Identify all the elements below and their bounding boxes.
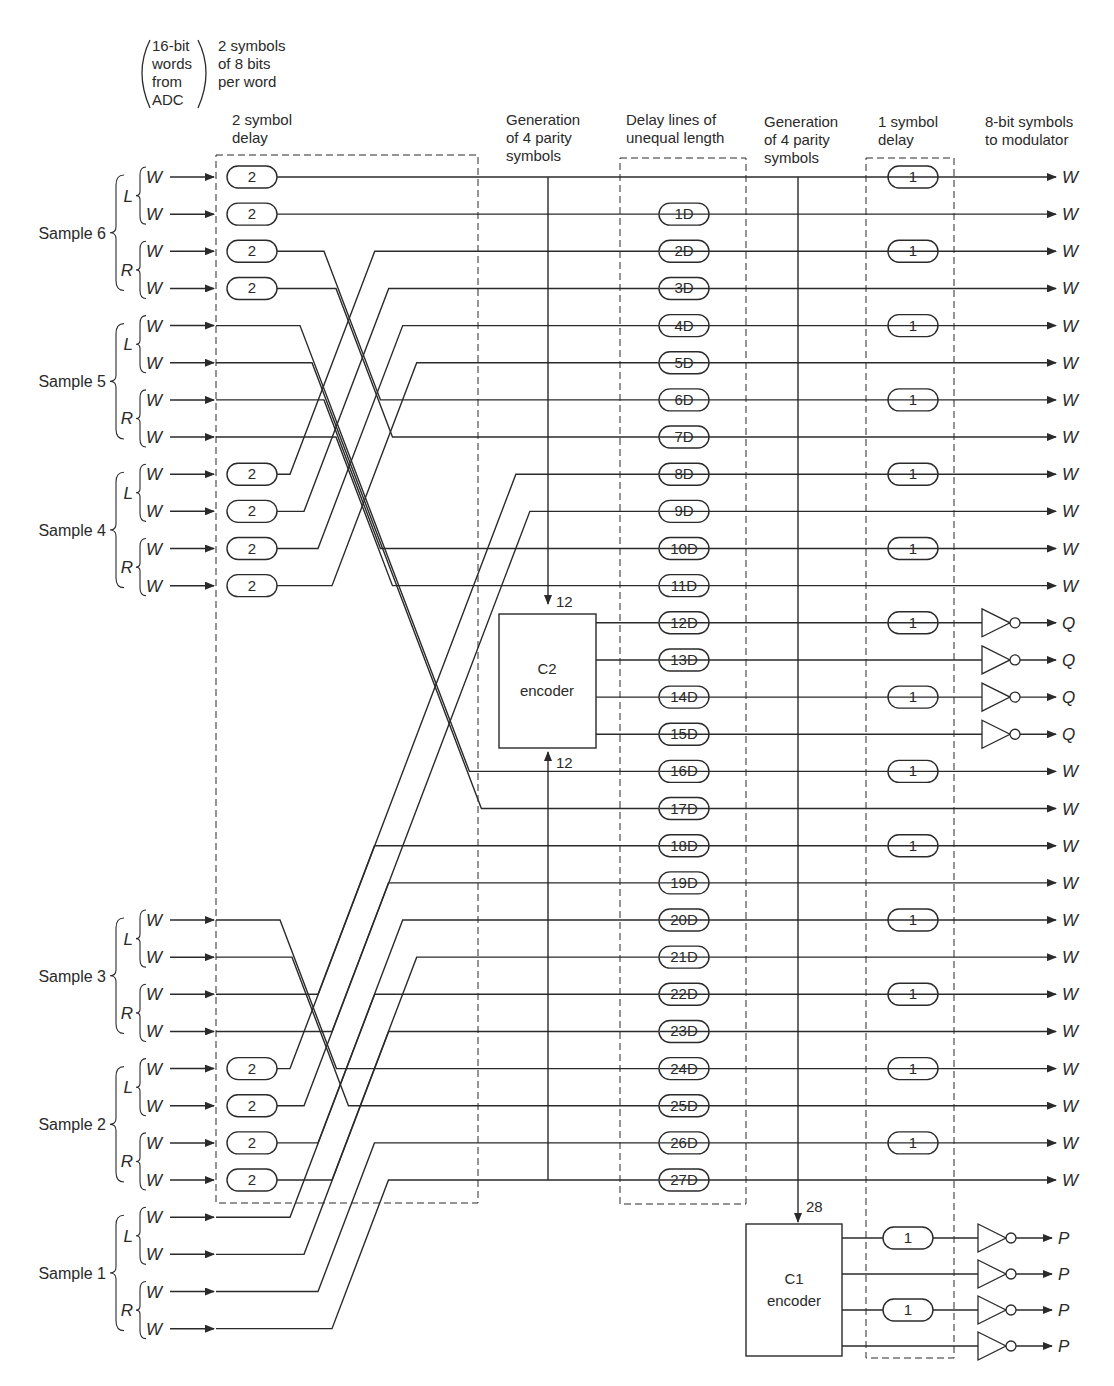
c2-encoder-subtitle: encoder <box>520 682 574 699</box>
output-symbol-label: Q <box>1062 614 1075 633</box>
channel-label: L <box>124 1227 133 1246</box>
output-symbol-label: W <box>1062 948 1080 967</box>
one-symbol-delay-box <box>866 158 954 1358</box>
inverter-bubble-icon <box>1010 618 1020 628</box>
two-symbol-delay-label: 2 <box>248 465 256 482</box>
input-word-label: W <box>146 242 164 261</box>
inverter-bubble-icon <box>1006 1341 1016 1351</box>
input-word-label: W <box>146 465 164 484</box>
header-1-symbol-delay: 1 symbol <box>878 113 938 130</box>
sample-label: Sample 6 <box>38 225 106 242</box>
outputs: WWWWWWWWWWWWQQQQWWWWWWWWWWWW <box>660 168 1080 1190</box>
header-output: to modulator <box>985 131 1068 148</box>
parity-p-label: P <box>1058 1265 1070 1284</box>
c2-encoder-title: C2 <box>537 660 556 677</box>
symbol-note: per word <box>218 73 276 90</box>
input-word-label: W <box>146 317 164 336</box>
output-symbol-label: Q <box>1062 688 1075 707</box>
channel-label: R <box>121 409 133 428</box>
output-symbol-label: W <box>1062 985 1080 1004</box>
channel-brace-icon <box>136 539 146 596</box>
output-symbol-label: Q <box>1062 651 1075 670</box>
header-output: 8-bit symbols <box>985 113 1073 130</box>
c2-input-count-bottom: 12 <box>556 754 573 771</box>
input-word-label: W <box>146 1134 164 1153</box>
channel-brace-icon <box>136 910 146 967</box>
output-symbol-label: W <box>1062 317 1080 336</box>
inverter-bubble-icon <box>1006 1305 1016 1315</box>
two-symbol-delay-label: 2 <box>248 205 256 222</box>
header-2-symbol-delay: delay <box>232 129 268 146</box>
c1-encoder-subtitle: encoder <box>767 1292 821 1309</box>
channel-label: R <box>121 1301 133 1320</box>
channel-label: L <box>124 187 133 206</box>
output-symbol-label: W <box>1062 428 1080 447</box>
right-paren-icon <box>198 40 206 108</box>
header-generation-2: symbols <box>764 149 819 166</box>
inverter-bubble-icon <box>1010 692 1020 702</box>
input-note: from <box>152 73 182 90</box>
channel-label: L <box>124 930 133 949</box>
inverter-bubble-icon <box>1006 1233 1016 1243</box>
column-headers: 16-bitwordsfromADC2 symbolsof 8 bitsper … <box>142 37 1073 166</box>
output-symbol-label: W <box>1062 540 1080 559</box>
output-symbol-label: W <box>1062 1097 1080 1116</box>
channel-brace-icon <box>136 316 146 373</box>
inverter-icon <box>978 1260 1006 1288</box>
input-word-label: W <box>146 1097 164 1116</box>
output-symbol-label: W <box>1062 1022 1080 1041</box>
inverter-icon <box>982 609 1010 637</box>
input-word-label: W <box>146 168 164 187</box>
input-word-label: W <box>146 1320 164 1339</box>
inverter-bubble-icon <box>1010 655 1020 665</box>
two-symbol-delay-label: 2 <box>248 540 256 557</box>
output-symbol-label: W <box>1062 1060 1080 1079</box>
input-word-label: W <box>146 540 164 559</box>
two-symbol-delay-label: 2 <box>248 1060 256 1077</box>
channel-brace-icon <box>136 464 146 521</box>
channel-label: R <box>121 558 133 577</box>
channel-brace-icon <box>136 1282 146 1339</box>
channel-label: R <box>121 1004 133 1023</box>
input-word-label: W <box>146 428 164 447</box>
inverter-icon <box>978 1296 1006 1324</box>
inverter-icon <box>978 1332 1006 1360</box>
header-2-symbol-delay: 2 symbol <box>232 111 292 128</box>
input-word-label: W <box>146 502 164 521</box>
input-word-label: W <box>146 205 164 224</box>
channel-label: R <box>121 261 133 280</box>
channel-label: L <box>124 335 133 354</box>
two-symbol-delay-label: 2 <box>248 242 256 259</box>
sample-label: Sample 4 <box>38 522 106 539</box>
output-symbol-label: W <box>1062 911 1080 930</box>
channel-brace-icon <box>136 241 146 298</box>
output-symbol-label: W <box>1062 465 1080 484</box>
output-symbol-label: W <box>1062 800 1080 819</box>
c1-encoder: C1encoder281PP1PP <box>746 1198 1070 1360</box>
inverter-icon <box>982 646 1010 674</box>
channel-label: L <box>124 1078 133 1097</box>
header-generation-2: Generation <box>764 113 838 130</box>
inverter-icon <box>978 1224 1006 1252</box>
c2-encoder: C2encoder1212 <box>499 593 596 771</box>
c1-encoder-box <box>746 1224 842 1356</box>
output-symbol-label: W <box>1062 279 1080 298</box>
sample-label: Sample 5 <box>38 373 106 390</box>
header-delay-lines: Delay lines of <box>626 111 717 128</box>
output-symbol-label: W <box>1062 502 1080 521</box>
input-note: ADC <box>152 91 184 108</box>
input-word-label: W <box>146 577 164 596</box>
two-symbol-delay-label: 2 <box>248 168 256 185</box>
input-word-label: W <box>146 1245 164 1264</box>
sample-label: Sample 2 <box>38 1116 106 1133</box>
two-symbol-delay-label: 2 <box>248 279 256 296</box>
c1-encoder-title: C1 <box>784 1270 803 1287</box>
output-symbol-label: Q <box>1062 725 1075 744</box>
c2-encoder-box <box>499 614 596 748</box>
output-symbol-label: W <box>1062 762 1080 781</box>
input-word-label: W <box>146 354 164 373</box>
input-word-label: W <box>146 1208 164 1227</box>
input-word-label: W <box>146 1283 164 1302</box>
sample-label: Sample 1 <box>38 1265 106 1282</box>
input-note: words <box>151 55 192 72</box>
